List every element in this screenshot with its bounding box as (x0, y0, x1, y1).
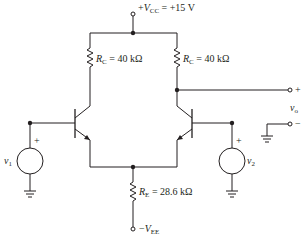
output-minus-terminal (288, 122, 292, 126)
rc-right-resistor-icon (174, 48, 180, 67)
circuit-schematic (0, 0, 303, 244)
q2-npn-transistor-icon (177, 106, 192, 140)
rc-left-label: RC = 40 kΩ (96, 54, 142, 66)
output-minus-label: − (295, 119, 301, 129)
v2-plus: + (236, 136, 242, 146)
v1-label: v1 (4, 156, 12, 168)
v2-source-icon (219, 148, 245, 174)
vee-label: −VEE (139, 224, 159, 236)
v1-plus: + (34, 136, 40, 146)
re-label: RE = 28.6 kΩ (139, 187, 192, 199)
circuit-diagram: +VCC = +15 V RC = 40 kΩ RC = 40 kΩ RE = … (0, 0, 303, 244)
vcc-terminal (131, 12, 135, 16)
re-resistor-icon (130, 182, 136, 201)
rc-right-label: RC = 40 kΩ (183, 54, 229, 66)
output-plus-label: + (295, 85, 301, 95)
vee-terminal (131, 227, 135, 231)
vcc-label: +VCC = +15 V (138, 3, 195, 15)
v1-source-icon (17, 148, 43, 174)
v2-label: v2 (247, 156, 255, 168)
q1-npn-transistor-icon (75, 106, 90, 140)
output-label: vo (290, 103, 298, 115)
rc-left-resistor-icon (87, 48, 93, 67)
output-plus-terminal (288, 88, 292, 92)
